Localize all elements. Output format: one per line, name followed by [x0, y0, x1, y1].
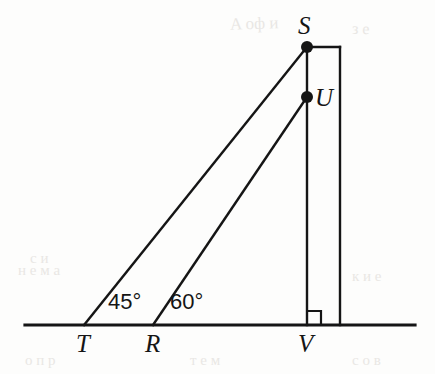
- vertex-dot-s: [301, 41, 313, 53]
- sight-line-T-to-S: [84, 47, 307, 325]
- geometry-diagram: Α оф из ес ин е м ак и ео п рт е мс о в …: [0, 0, 435, 374]
- vertex-dot-u: [301, 91, 313, 103]
- angle-at-R-label: 60°: [170, 291, 203, 313]
- point-label-v: V: [298, 331, 313, 356]
- point-label-t: T: [76, 331, 90, 356]
- point-label-s: S: [298, 13, 311, 38]
- point-label-u: U: [315, 85, 333, 110]
- point-label-r: R: [145, 331, 160, 356]
- segments-group: [25, 47, 415, 325]
- angle-at-T-label: 45°: [108, 291, 141, 313]
- right-angle-marker: [307, 311, 321, 325]
- diagram-canvas: [0, 0, 435, 374]
- right-angle-at-V: [307, 311, 321, 325]
